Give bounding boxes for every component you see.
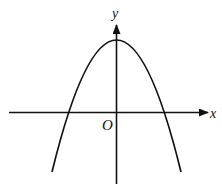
y-axis-label: y [110,6,119,21]
origin-label: O [102,117,113,133]
coordinate-diagram: y x O [0,0,222,190]
x-axis-label: x [209,106,217,121]
